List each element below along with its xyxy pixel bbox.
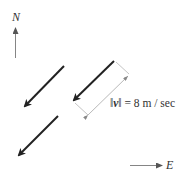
norm-value: ‖ = 8 m / sec (118, 97, 175, 109)
north-label: N (12, 10, 20, 25)
velocity-field-diagram: N E ‖v‖ = 8 m / sec (0, 0, 189, 183)
dimension-extension-bottom (75, 103, 88, 115)
dimension-extension-top (116, 62, 129, 74)
magnitude-label: ‖v‖ = 8 m / sec (110, 97, 175, 109)
velocity-arrow-1 (25, 66, 64, 106)
east-label: E (166, 158, 173, 173)
diagram-canvas (0, 0, 189, 183)
velocity-arrow-3 (19, 116, 58, 155)
velocity-arrow-2 (74, 61, 114, 100)
